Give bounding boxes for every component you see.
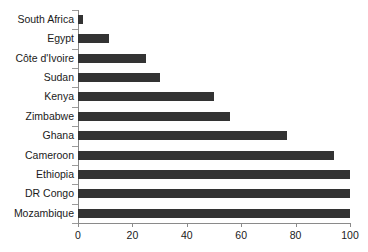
y-axis-tick <box>72 204 78 205</box>
bar <box>78 131 287 140</box>
y-axis-tick <box>72 146 78 147</box>
bar <box>78 15 83 24</box>
bar-row <box>78 87 350 106</box>
bar <box>78 151 334 160</box>
bar-row <box>78 29 350 48</box>
y-axis-tick <box>72 184 78 185</box>
y-axis-tick <box>72 68 78 69</box>
bar <box>78 73 160 82</box>
y-axis-tick <box>72 29 78 30</box>
bar-row <box>78 10 350 29</box>
bar <box>78 54 146 63</box>
x-axis-tick <box>78 223 79 227</box>
y-axis-tick <box>72 126 78 127</box>
x-axis-tick <box>241 223 242 227</box>
bar <box>78 170 350 179</box>
bar-row <box>78 165 350 184</box>
bar-row <box>78 49 350 68</box>
x-axis-tick <box>132 223 133 227</box>
bar <box>78 189 350 198</box>
y-axis-tick <box>72 107 78 108</box>
x-axis-tick-label: 60 <box>235 230 247 241</box>
bar-row <box>78 68 350 87</box>
x-axis-tick <box>296 223 297 227</box>
x-axis-tick <box>350 223 351 227</box>
x-axis-line <box>78 223 350 224</box>
bar-row <box>78 204 350 223</box>
category-label: Mozambique <box>0 208 74 219</box>
x-axis-tick-label: 80 <box>290 230 302 241</box>
y-axis-tick <box>72 87 78 88</box>
category-label: Côte d'Ivoire <box>0 53 74 64</box>
category-label: DR Congo <box>0 188 74 199</box>
bar-row <box>78 107 350 126</box>
category-label: Kenya <box>0 91 74 102</box>
bar-row <box>78 126 350 145</box>
category-label: Ethiopia <box>0 169 74 180</box>
y-axis-tick <box>72 49 78 50</box>
y-axis-tick <box>72 165 78 166</box>
bar-chart: South AfricaEgyptCôte d'IvoireSudanKenya… <box>0 0 368 252</box>
x-axis-tick-label: 100 <box>341 230 359 241</box>
bar <box>78 34 109 43</box>
plot-area <box>78 10 350 223</box>
bar-row <box>78 184 350 203</box>
x-axis-tick-label: 40 <box>181 230 193 241</box>
bar <box>78 92 214 101</box>
category-label: Zimbabwe <box>0 111 74 122</box>
category-label: Sudan <box>0 72 74 83</box>
category-label: South Africa <box>0 14 74 25</box>
category-label: Cameroon <box>0 150 74 161</box>
category-labels: South AfricaEgyptCôte d'IvoireSudanKenya… <box>0 10 74 223</box>
y-axis-tick <box>72 10 78 11</box>
bar-row <box>78 146 350 165</box>
x-axis-tick <box>187 223 188 227</box>
bar <box>78 209 350 218</box>
bar <box>78 112 230 121</box>
x-axis-tick-label: 0 <box>75 230 81 241</box>
category-label: Ghana <box>0 130 74 141</box>
category-label: Egypt <box>0 33 74 44</box>
x-axis-tick-label: 20 <box>127 230 139 241</box>
